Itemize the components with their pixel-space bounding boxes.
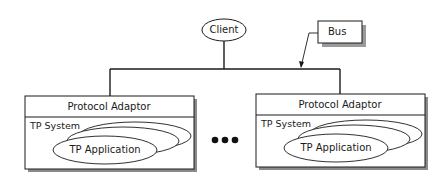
protocol-adaptor-label-left: Protocol Adaptor bbox=[67, 102, 150, 112]
client-label: Client bbox=[210, 25, 239, 35]
tp-system-label-left: TP System bbox=[30, 121, 80, 131]
ellipsis-dots bbox=[212, 137, 239, 144]
tp-application-label-right: TP Application bbox=[300, 143, 371, 153]
protocol-adaptor-label-right: Protocol Adaptor bbox=[298, 100, 381, 110]
tp-system-label-right: TP System bbox=[261, 119, 311, 129]
bus-label: Bus bbox=[328, 27, 346, 37]
tp-application-label-left: TP Application bbox=[69, 145, 140, 155]
